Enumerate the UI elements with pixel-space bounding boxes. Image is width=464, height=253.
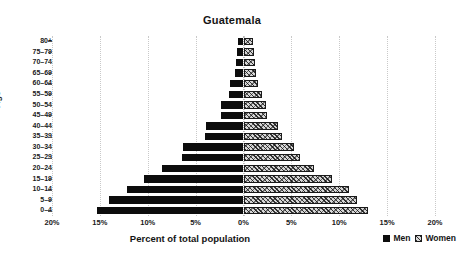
y-axis-tick-label: 40–44	[0, 121, 52, 132]
pyramid-row	[52, 47, 435, 58]
pyramid-row	[52, 205, 435, 216]
bar-women	[244, 91, 262, 98]
y-axis-tick-label: 10–14	[0, 184, 52, 195]
bar-men	[229, 91, 243, 98]
y-axis-tick-label: 50–54	[0, 100, 52, 111]
bar-men	[236, 59, 244, 66]
x-axis-tick-label: 20%	[32, 218, 72, 227]
x-axis-label: Percent of total population	[0, 233, 380, 244]
bar-men	[109, 196, 243, 203]
legend-item-men: Men	[383, 233, 410, 243]
y-axis-tick-label: 15–19	[0, 174, 52, 185]
legend-label-men: Men	[393, 233, 410, 243]
bar-men	[237, 48, 244, 55]
y-axis-tick-label: 20–24	[0, 163, 52, 174]
x-axis-tick-label: 5%	[176, 218, 216, 227]
x-axis-tick-label: 15%	[80, 218, 120, 227]
x-axis-tick-labels: 20%15%10%5%0%5%10%15%20%	[52, 216, 435, 232]
pyramid-row	[52, 131, 435, 142]
bar-women	[244, 80, 258, 87]
y-axis-tick-label: 70–74	[0, 57, 52, 68]
bar-women	[244, 69, 256, 76]
y-axis-tick-label: 25–29	[0, 152, 52, 163]
bar-women	[244, 112, 268, 119]
bar-men	[221, 101, 244, 108]
bar-men	[182, 154, 243, 161]
bar-women	[244, 207, 368, 214]
bar-women	[244, 59, 255, 66]
pyramid-row	[52, 163, 435, 174]
gridline	[435, 36, 437, 216]
y-axis-tick-label: 80+	[0, 36, 52, 47]
bar-men	[206, 122, 243, 129]
bar-men	[97, 207, 243, 214]
bar-women	[244, 101, 267, 108]
pyramid-row	[52, 57, 435, 68]
bar-men	[127, 186, 244, 193]
bar-men	[221, 112, 244, 119]
filled-square-icon	[383, 235, 390, 242]
bar-men	[230, 80, 243, 87]
bar-men	[162, 165, 243, 172]
x-axis-tick-label: 0%	[224, 218, 264, 227]
y-axis-tick-label: 65–69	[0, 68, 52, 79]
pyramid-row	[52, 195, 435, 206]
legend-label-women: Women	[425, 233, 456, 243]
bar-women	[244, 48, 255, 55]
y-axis-tick-label: 75–79	[0, 47, 52, 58]
pyramid-row	[52, 68, 435, 79]
y-axis-tick-label: 5–9	[0, 195, 52, 206]
y-axis-tick-label: 35–39	[0, 131, 52, 142]
pyramid-row	[52, 100, 435, 111]
chart-legend: Men Women	[383, 233, 456, 243]
bar-men	[205, 133, 243, 140]
x-axis-tick-label: 5%	[271, 218, 311, 227]
pyramid-row	[52, 121, 435, 132]
x-axis-tick-label: 20%	[415, 218, 455, 227]
bar-women	[244, 143, 295, 150]
bar-women	[244, 186, 349, 193]
pyramid-row	[52, 89, 435, 100]
pyramid-row	[52, 36, 435, 47]
population-pyramid-chart: Guatemala Age 0–45–910–1415–1920–2425–29…	[0, 0, 464, 253]
bar-women	[244, 165, 315, 172]
pyramid-row	[52, 78, 435, 89]
pyramid-row	[52, 184, 435, 195]
y-axis-tick-label: 55–59	[0, 89, 52, 100]
x-axis-tick-label: 15%	[367, 218, 407, 227]
y-axis-tick-label: 30–34	[0, 142, 52, 153]
bar-men	[144, 175, 244, 182]
bar-women	[244, 133, 282, 140]
chart-title: Guatemala	[0, 14, 464, 26]
bar-men	[235, 69, 244, 76]
bar-women	[244, 122, 278, 129]
pyramid-row	[52, 152, 435, 163]
y-axis-tick-label: 0–4	[0, 205, 52, 216]
y-axis-tick-label: 60–64	[0, 78, 52, 89]
pyramid-row	[52, 110, 435, 121]
x-axis-tick-label: 10%	[319, 218, 359, 227]
bar-women	[244, 154, 300, 161]
plot-area	[52, 36, 435, 216]
pyramid-row	[52, 174, 435, 185]
y-axis-tick-label: 45–49	[0, 110, 52, 121]
x-axis-tick-label: 10%	[128, 218, 168, 227]
hatched-square-icon	[415, 235, 422, 242]
legend-item-women: Women	[415, 233, 456, 243]
bar-women	[244, 196, 358, 203]
bar-women	[244, 38, 254, 45]
bar-men	[183, 143, 243, 150]
bar-women	[244, 175, 332, 182]
y-axis-tick-labels: 0–45–910–1415–1920–2425–2930–3435–3940–4…	[0, 36, 52, 216]
pyramid-row	[52, 142, 435, 153]
